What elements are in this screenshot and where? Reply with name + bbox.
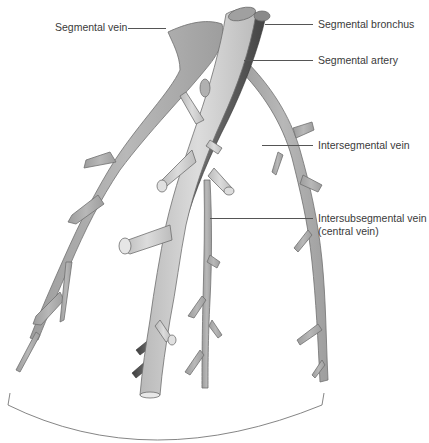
- leader-intersegmental-vein: [262, 145, 313, 146]
- intersubsegmental-vein-shape: [185, 180, 222, 388]
- label-intersubsegmental-vein-line2: (central vein): [318, 225, 427, 238]
- segment-bracket: [8, 393, 324, 440]
- label-intersubsegmental-vein-line1: Intersubsegmental vein: [318, 212, 427, 225]
- label-segmental-vein: Segmental vein: [55, 21, 127, 34]
- label-segmental-bronchus: Segmental bronchus: [318, 18, 414, 31]
- label-segmental-artery: Segmental artery: [318, 54, 398, 67]
- label-intersubsegmental-vein: Intersubsegmental vein (central vein): [318, 212, 427, 238]
- label-intersegmental-vein: Intersegmental vein: [318, 139, 410, 152]
- leader-intersubsegmental-vein: [210, 218, 313, 219]
- leader-segmental-artery: [244, 60, 313, 61]
- leader-segmental-bronchus: [265, 24, 313, 25]
- intersegmental-vein-shape: [238, 60, 328, 382]
- leader-segmental-vein: [128, 28, 166, 29]
